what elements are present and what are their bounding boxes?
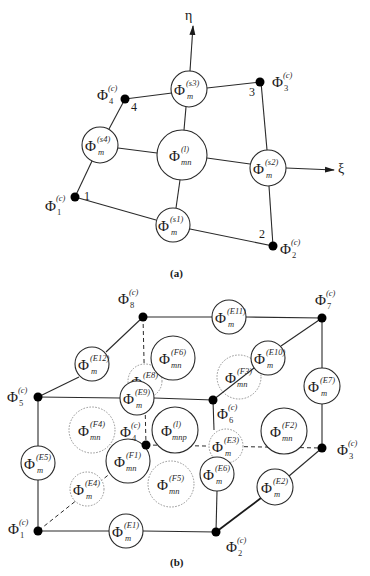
svg-text:(F4): (F4) — [90, 419, 105, 429]
svg-text:mn: mn — [171, 360, 181, 370]
caption-a: (a) — [170, 267, 183, 280]
svg-text:(c): (c) — [56, 193, 66, 203]
svg-text:m: m — [98, 147, 104, 157]
corner-node-7 — [318, 314, 327, 323]
svg-text:m: m — [187, 91, 193, 101]
svg-text:2: 2 — [292, 250, 296, 260]
svg-text:(F5): (F5) — [169, 473, 184, 483]
xi-axis-label: ξ — [338, 161, 344, 176]
svg-text:Φ: Φ — [114, 454, 125, 470]
svg-text:(c): (c) — [348, 438, 358, 448]
edge-2-E2 — [216, 498, 261, 532]
interior-mode-l: Φ (l) mnp — [152, 407, 198, 453]
svg-text:Φ: Φ — [112, 524, 123, 540]
svg-text:Φ: Φ — [270, 424, 281, 440]
corner-label-1: Φ (c) 1 — [45, 193, 66, 217]
svg-text:(F6): (F6) — [171, 347, 186, 357]
svg-text:mn: mn — [126, 463, 136, 473]
svg-text:7: 7 — [327, 301, 331, 311]
svg-text:Φ: Φ — [159, 351, 170, 367]
face-mode-F6: Φ (F6) mn — [151, 336, 195, 380]
svg-text:(c): (c) — [228, 402, 238, 412]
edge-mode-E1: Φ (E1) m — [109, 514, 143, 548]
svg-text:8: 8 — [130, 300, 134, 310]
svg-text:(c): (c) — [18, 385, 28, 395]
svg-text:(E10): (E10) — [266, 347, 286, 357]
svg-text:(E12): (E12) — [90, 353, 110, 363]
svg-text:Φ: Φ — [169, 148, 180, 164]
svg-text:m: m — [216, 476, 222, 486]
svg-text:(s4): (s4) — [97, 134, 110, 144]
svg-text:Φ: Φ — [315, 292, 326, 308]
corner-number-4: 4 — [131, 100, 137, 114]
corner-label-4: Φ (c) 4 — [97, 83, 118, 106]
svg-text:Φ: Φ — [253, 161, 264, 177]
svg-text:(E7): (E7) — [320, 375, 335, 385]
svg-text:(F2): (F2) — [282, 420, 297, 430]
svg-text:m: m — [225, 448, 231, 458]
edge-mode-E10: Φ (E10) m — [251, 341, 286, 375]
svg-text:Φ: Φ — [120, 424, 131, 440]
edge-5-E9 — [38, 397, 120, 398]
corner-label-1: Φ (c) 1 — [8, 517, 29, 540]
side-mode-s2: Φ (s2) m — [250, 150, 286, 186]
svg-text:Φ: Φ — [73, 482, 84, 498]
corner-label-6: Φ (c) 6 — [217, 402, 238, 425]
svg-text:(E4): (E4) — [85, 478, 100, 488]
svg-text:(c): (c) — [129, 287, 139, 297]
svg-text:(s3): (s3) — [186, 78, 199, 88]
face-mode-F5: Φ (F5) mn — [148, 461, 194, 507]
corner-label-3: Φ (c) 3 — [272, 70, 293, 93]
svg-text:Φ: Φ — [97, 87, 108, 103]
svg-text:Φ: Φ — [8, 521, 19, 537]
svg-text:2: 2 — [238, 548, 242, 558]
svg-text:(E6): (E6) — [215, 463, 230, 473]
edge-s2-2 — [269, 186, 273, 246]
svg-text:Φ: Φ — [24, 456, 35, 472]
svg-text:3: 3 — [349, 451, 353, 461]
face-mode-F2: Φ (F2) mn — [261, 408, 307, 454]
edge-E12-5 — [38, 377, 79, 397]
svg-text:Φ: Φ — [161, 423, 172, 439]
svg-text:m: m — [125, 533, 131, 543]
svg-text:Φ: Φ — [118, 291, 129, 307]
svg-text:(E1): (E1) — [124, 520, 139, 530]
svg-text:mn: mn — [169, 486, 179, 496]
svg-text:(l): (l) — [173, 419, 181, 429]
interior-mode-l: Φ (l) mn — [157, 130, 207, 180]
svg-text:Φ: Φ — [157, 477, 168, 493]
edge-mode-E5: Φ (E5) m — [21, 446, 55, 480]
eta-axis-label: η — [185, 8, 192, 23]
edge-E11-7 — [246, 317, 322, 318]
svg-text:Φ: Φ — [212, 439, 223, 455]
svg-text:Φ: Φ — [85, 138, 96, 154]
svg-text:1: 1 — [57, 207, 61, 217]
corner-node-4 — [142, 441, 151, 450]
svg-text:(E11): (E11) — [227, 306, 246, 316]
corner-node-6 — [209, 396, 218, 405]
edge-mode-E9: Φ (E9) m — [120, 381, 154, 415]
svg-text:Φ: Φ — [261, 480, 272, 496]
svg-text:3: 3 — [284, 83, 288, 93]
svg-text:(E5): (E5) — [36, 452, 51, 462]
svg-text:mnp: mnp — [172, 432, 187, 442]
corner-number-3: 3 — [249, 85, 255, 99]
svg-text:mn: mn — [282, 433, 292, 443]
edge-mode-E11: Φ (E11) m — [212, 300, 246, 334]
corner-node-2 — [269, 242, 278, 251]
svg-text:Φ: Φ — [203, 467, 214, 483]
corner-node-3 — [318, 444, 327, 453]
svg-text:Φ: Φ — [280, 241, 291, 257]
svg-text:Φ: Φ — [174, 82, 185, 98]
svg-text:(c): (c) — [283, 70, 293, 80]
figure-a: η ξ 1 2 3 4 Φ (c) 1 Φ (c) 2 Φ (c) 3 Φ (c… — [45, 8, 344, 280]
corner-node-1 — [71, 193, 80, 202]
edge-mode-E2: Φ (E2) m — [257, 469, 293, 505]
edge-8-E12 — [106, 317, 143, 352]
svg-text:mn: mn — [181, 157, 191, 167]
svg-text:(c): (c) — [131, 420, 141, 430]
svg-text:(s2): (s2) — [265, 157, 278, 167]
corner-label-2: Φ (c) 2 — [280, 237, 301, 260]
svg-text:mn: mn — [90, 432, 100, 442]
svg-text:Φ: Φ — [215, 310, 226, 326]
